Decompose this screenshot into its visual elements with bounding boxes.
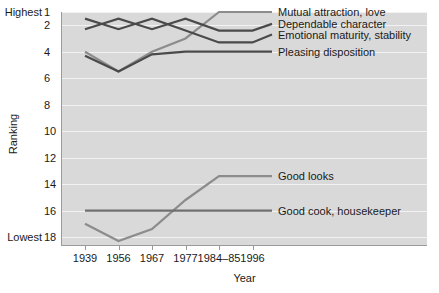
series-label: Pleasing disposition — [278, 46, 375, 58]
series-label: Good looks — [278, 170, 334, 182]
series-line — [85, 176, 272, 241]
series-label: Good cook, housekeeper — [278, 205, 401, 217]
series-line — [85, 52, 272, 72]
chart-figure: 124681012141618HighestLowest Ranking 193… — [0, 0, 439, 293]
series-label: Mutual attraction, love — [278, 6, 386, 18]
series-lines — [0, 0, 439, 293]
series-label: Emotional maturity, stability — [278, 29, 411, 41]
